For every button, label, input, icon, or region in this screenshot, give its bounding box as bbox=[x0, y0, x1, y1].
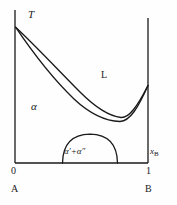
component-label-a: A bbox=[11, 184, 18, 194]
x-axis-tick-label-0: 0 bbox=[11, 166, 16, 176]
alpha-phase-label: α bbox=[31, 101, 37, 112]
liquid-phase-label: L bbox=[101, 70, 107, 80]
temperature-axis-label: T bbox=[28, 9, 34, 20]
composition-axis-label: xB bbox=[150, 147, 159, 158]
composition-axis-label-subscript: B bbox=[154, 150, 159, 158]
phase-diagram-figure: T L α α′+α″ xB 0 1 A B bbox=[0, 0, 177, 205]
component-label-b: B bbox=[145, 184, 152, 194]
x-axis-tick-label-1: 1 bbox=[146, 166, 151, 176]
miscibility-gap-label: α′+α″ bbox=[64, 147, 85, 156]
